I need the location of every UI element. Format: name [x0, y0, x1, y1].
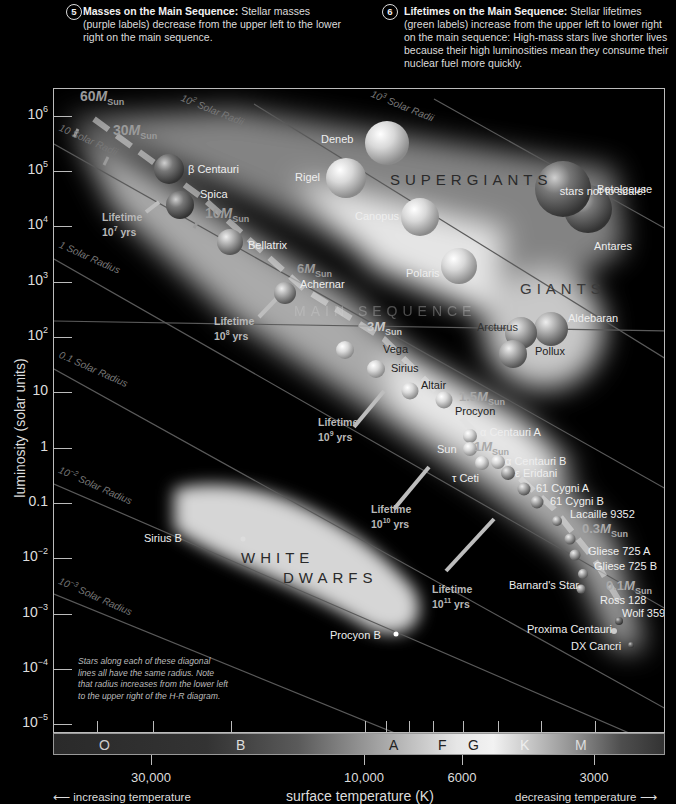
- y-label-1e-5: 10−5: [22, 714, 48, 730]
- y-tick: [53, 226, 72, 227]
- label-procyon: Procyon: [455, 405, 495, 417]
- y-label-1e3: 103: [27, 272, 48, 288]
- mass-1-5: 1.5MSun: [459, 389, 505, 407]
- y-tick: [53, 116, 72, 117]
- mass-3: 3MSun: [367, 319, 402, 337]
- star-deneb: [365, 121, 409, 165]
- y-label-1e4: 104: [27, 216, 48, 232]
- spectral-b: B: [236, 737, 245, 753]
- label-vega: Vega: [383, 343, 408, 355]
- lifetime-1e10: Lifetime1010 yrs: [371, 503, 411, 530]
- label-sirius-b: Sirius B: [144, 532, 182, 544]
- y-label-1e5: 105: [27, 161, 48, 177]
- spectral-o: O: [99, 737, 110, 753]
- y-label-1e6: 106: [27, 106, 48, 122]
- region-main-sequence: MAIN SEQUENCE: [294, 303, 476, 319]
- label-canopus: Canopus: [355, 210, 399, 222]
- right-arrow-icon: ⟶: [640, 791, 657, 803]
- label-beta-centauri: β Centauri: [188, 163, 239, 175]
- y-tick: [53, 669, 72, 670]
- x-minor-tick: [153, 721, 154, 733]
- x-minor-tick: [386, 721, 387, 733]
- y-label-0-1: 0.1: [29, 493, 48, 509]
- y-tick: [53, 503, 72, 504]
- label-proxima-centauri: Proxima Centauri: [527, 623, 612, 635]
- note-masses-title: Masses on the Main Sequence:: [83, 5, 238, 17]
- label-polaris: Polaris: [406, 267, 440, 279]
- label-gliese-725b: Gliese 725 B: [594, 560, 657, 572]
- label-tau-ceti: τ Ceti: [452, 472, 479, 484]
- increasing-temperature-note: ⟵ increasing temperature: [53, 790, 191, 804]
- region-white: WHITE: [241, 549, 314, 566]
- mass-0-3: 0.3MSun: [582, 521, 628, 539]
- label-dx-cancri: DX Cancri: [571, 640, 621, 652]
- label-lacaille-9352: Lacaille 9352: [570, 508, 635, 520]
- label-ross-128: Ross 128: [600, 594, 646, 606]
- lifetime-1e9: Lifetime109 yrs: [318, 416, 358, 443]
- radius-lines-caption: Stars along each of these diagonal lines…: [78, 656, 228, 702]
- x-minor-tick: [498, 721, 499, 733]
- lifetime-1e11: Lifetime1011 yrs: [432, 583, 472, 610]
- mass-30: 30MSun: [113, 122, 157, 141]
- spectral-k: K: [520, 737, 529, 753]
- mass-10: 10MSun: [205, 205, 249, 224]
- mass-60: 60MSun: [80, 88, 124, 107]
- note-masses: Masses on the Main Sequence: Stellar mas…: [83, 5, 343, 44]
- label-spica: Spica: [200, 188, 228, 200]
- note-lifetimes-title: Lifetimes on the Main Sequence:: [404, 5, 567, 17]
- x-tick: [364, 755, 365, 765]
- x-minor-tick: [463, 721, 464, 733]
- y-tick: [53, 558, 72, 559]
- label-wolf-359: Wolf 359: [622, 607, 665, 619]
- spectral-m: M: [575, 737, 587, 753]
- label-alpha-centauri-b: α Centauri B: [505, 455, 566, 467]
- x-tick: [462, 755, 463, 765]
- x-minor-tick: [365, 721, 366, 733]
- label-bellatrix: Bellatrix: [248, 239, 287, 251]
- label-aldebaran: Aldebaran: [568, 312, 618, 324]
- x-tick: [151, 755, 152, 765]
- label-antares: Antares: [594, 240, 632, 252]
- y-tick: [53, 724, 72, 725]
- spectral-g: G: [468, 737, 479, 753]
- label-epsilon-eridani: ε Eridani: [515, 467, 557, 479]
- label-achernar: Achernar: [300, 278, 345, 290]
- note-6-number: 6: [382, 4, 398, 20]
- y-tick: [53, 392, 72, 393]
- label-61-cygni-b: 61 Cygni B: [550, 495, 604, 507]
- left-arrow-icon: ⟵: [53, 791, 70, 803]
- mass-6: 6MSun: [297, 261, 332, 279]
- x-minor-tick: [231, 721, 232, 733]
- y-label-1e-2: 10−2: [22, 548, 48, 564]
- label-rigel: Rigel: [295, 171, 320, 183]
- y-tick: [53, 282, 72, 283]
- label-sun: Sun: [437, 443, 457, 455]
- x-label-3000: 3000: [580, 770, 609, 785]
- x-minor-tick: [541, 721, 542, 733]
- decreasing-temperature-note: decreasing temperature ⟶: [515, 790, 657, 804]
- label-gliese-725a: Gliese 725 A: [588, 545, 650, 557]
- x-label-30000: 30,000: [131, 770, 171, 785]
- mass-1: 1MSun: [474, 439, 509, 457]
- y-axis-title: luminosity (solar units): [12, 328, 28, 528]
- x-minor-tick: [409, 721, 410, 733]
- y-label-1e2: 102: [27, 327, 48, 343]
- region-giants: GIANTS: [520, 280, 606, 297]
- region-dwarfs: DWARFS: [283, 569, 377, 586]
- x-label-6000: 6000: [448, 770, 477, 785]
- region-supergiants: SUPERGIANTS: [390, 171, 553, 188]
- y-label-10: 10: [32, 382, 48, 398]
- label-altair: Altair: [421, 379, 446, 391]
- note-lifetimes: Lifetimes on the Main Sequence: Stellar …: [404, 5, 674, 70]
- label-procyon-b: Procyon B: [330, 629, 381, 641]
- star-polaris: [441, 248, 477, 284]
- x-label-10000: 10,000: [344, 770, 384, 785]
- x-minor-tick: [433, 721, 434, 733]
- lifetime-1e8: Lifetime108 yrs: [214, 315, 254, 342]
- spectral-a: A: [389, 737, 398, 753]
- x-axis-title: surface temperature (K): [286, 788, 434, 804]
- label-barnards-star: Barnard's Star: [509, 579, 579, 591]
- y-label-1e-4: 10−4: [22, 659, 48, 675]
- lifetime-1e7: Lifetime107 yrs: [102, 211, 142, 238]
- star-rigel: [326, 158, 366, 198]
